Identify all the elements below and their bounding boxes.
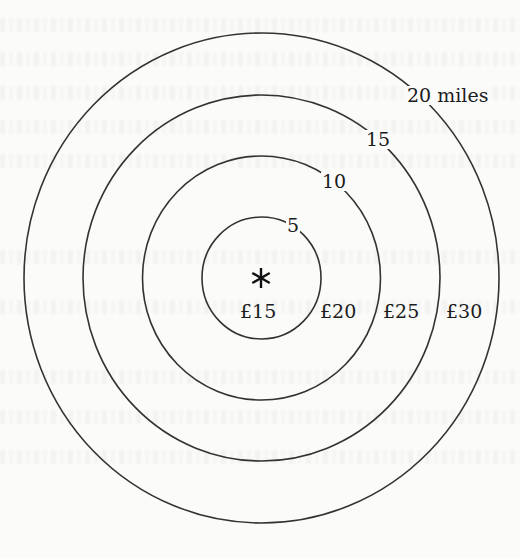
asterisk-icon	[249, 266, 273, 290]
ring-label-20-miles: 20 miles	[406, 86, 489, 105]
price-label-20: £20	[320, 302, 356, 321]
price-label-25: £25	[383, 302, 419, 321]
ring-label-5: 5	[286, 216, 300, 235]
price-label-15: £15	[240, 302, 276, 321]
ring-label-10: 10	[321, 172, 347, 191]
ring-label-15: 15	[365, 130, 391, 149]
distance-price-diagram: 5 10 15 20 miles £15 £20 £25 £30	[0, 0, 520, 558]
price-label-30: £30	[446, 302, 482, 321]
